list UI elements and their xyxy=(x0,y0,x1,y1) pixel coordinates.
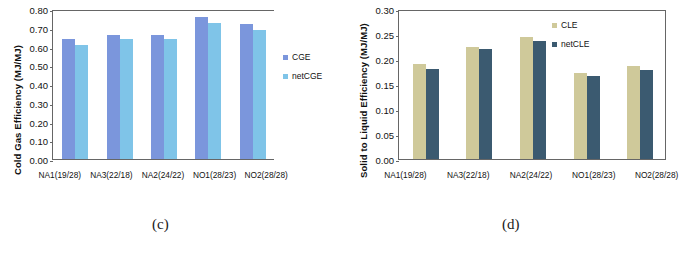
bar-cle xyxy=(520,37,533,160)
x-tick-label: NO2(28/28) xyxy=(625,170,688,180)
y-tick-mark xyxy=(50,86,54,87)
y-tick-label: 0.30 xyxy=(376,5,395,16)
y-tick-mark xyxy=(50,124,54,125)
bars-layer-c xyxy=(53,11,274,159)
x-tick-label: NO2(28/28) xyxy=(240,170,292,180)
legend-item: netCLE xyxy=(552,39,589,49)
y-tick-label: 0.70 xyxy=(30,23,49,34)
plot-area-d xyxy=(398,10,666,160)
legend-swatch-icon xyxy=(552,23,557,28)
x-tick-label: NO1(28/23) xyxy=(189,170,241,180)
x-tick-label: NA3(22/18) xyxy=(86,170,138,180)
bar-cge xyxy=(240,24,253,159)
x-tick-label: NO1(28/23) xyxy=(562,170,625,180)
x-axis-tick-labels-d: NA1(19/28)NA3(22/18)NA2(24/22)NO1(28/23)… xyxy=(374,170,688,180)
legend-item: CGE xyxy=(283,52,322,62)
chart-panel-c: Cold Gas Efficiency (MJ/MJ) 0.000.100.20… xyxy=(0,0,346,254)
bar-cge xyxy=(195,17,208,159)
bar-group xyxy=(613,11,667,159)
y-tick-mark xyxy=(396,111,400,112)
legend-label: netCLE xyxy=(561,39,589,49)
panel-caption-d: (d) xyxy=(502,216,520,233)
y-axis-tick-labels-c: 0.000.100.200.300.400.500.600.700.80 xyxy=(14,0,48,254)
y-tick-label: 0.20 xyxy=(30,117,49,128)
y-tick-label: 0.50 xyxy=(30,61,49,72)
bar-group xyxy=(53,11,97,159)
bar-netcle xyxy=(426,69,439,160)
y-tick-label: 0.00 xyxy=(30,155,49,166)
y-tick-mark xyxy=(396,161,400,162)
y-tick-mark xyxy=(396,11,400,12)
plot-area-c xyxy=(52,10,274,160)
bar-netcge xyxy=(120,39,133,159)
x-axis-tick-labels-c: NA1(19/28)NA3(22/18)NA2(24/22)NO1(28/23)… xyxy=(34,170,292,180)
bar-group xyxy=(142,11,186,159)
x-tick-label: NA1(19/28) xyxy=(374,170,437,180)
y-tick-mark xyxy=(50,105,54,106)
bars-layer-d xyxy=(399,11,665,159)
bar-cle xyxy=(574,73,587,159)
y-tick-label: 0.10 xyxy=(376,105,395,116)
x-tick-label: NA3(22/18) xyxy=(437,170,500,180)
y-axis-tick-labels-d: 0.000.050.100.150.200.250.30 xyxy=(360,0,394,254)
y-tick-mark xyxy=(50,49,54,50)
y-tick-mark xyxy=(396,61,400,62)
y-tick-mark xyxy=(396,136,400,137)
bar-group xyxy=(186,11,230,159)
bar-netcge xyxy=(75,45,88,159)
y-tick-label: 0.15 xyxy=(376,80,395,91)
y-tick-label: 0.25 xyxy=(376,30,395,41)
bar-cge xyxy=(151,35,164,159)
x-tick-label: NA2(24/22) xyxy=(137,170,189,180)
y-tick-mark xyxy=(50,161,54,162)
panel-caption-c: (c) xyxy=(152,216,169,233)
y-tick-label: 0.60 xyxy=(30,42,49,53)
y-tick-mark xyxy=(50,11,54,12)
bar-netcge xyxy=(164,39,177,159)
legend-c: CGEnetCGE xyxy=(283,52,322,81)
y-tick-mark xyxy=(396,36,400,37)
legend-label: CLE xyxy=(561,20,578,30)
legend-item: CLE xyxy=(552,20,589,30)
legend-label: CGE xyxy=(292,52,310,62)
y-tick-label: 0.40 xyxy=(30,80,49,91)
x-tick-label: NA1(19/28) xyxy=(34,170,86,180)
legend-swatch-icon xyxy=(283,74,288,79)
bar-group xyxy=(399,11,453,159)
y-tick-mark xyxy=(50,67,54,68)
bar-group xyxy=(97,11,141,159)
y-tick-label: 0.80 xyxy=(30,5,49,16)
legend-d: CLEnetCLE xyxy=(552,20,589,49)
bar-netcle xyxy=(640,70,653,160)
x-tick-label: NA2(24/22) xyxy=(500,170,563,180)
bar-cge xyxy=(107,35,120,159)
y-tick-label: 0.00 xyxy=(376,155,395,166)
bar-cle xyxy=(627,66,640,160)
legend-item: netCGE xyxy=(283,71,322,81)
bar-netcle xyxy=(587,76,600,159)
y-tick-label: 0.30 xyxy=(30,98,49,109)
y-tick-mark xyxy=(396,86,400,87)
bar-netcle xyxy=(479,49,492,159)
legend-swatch-icon xyxy=(552,42,557,47)
chart-panel-d: Solid to Liquid Efficiency (MJ/MJ) 0.000… xyxy=(346,0,692,254)
bar-cle xyxy=(413,64,426,159)
y-tick-label: 0.20 xyxy=(376,55,395,66)
bar-netcge xyxy=(253,30,266,159)
y-tick-label: 0.10 xyxy=(30,136,49,147)
bar-netcge xyxy=(208,23,221,159)
y-tick-mark xyxy=(50,30,54,31)
bar-group xyxy=(231,11,275,159)
y-tick-mark xyxy=(50,142,54,143)
bar-group xyxy=(453,11,507,159)
bar-cle xyxy=(466,47,479,160)
bar-netcle xyxy=(533,41,546,160)
legend-swatch-icon xyxy=(283,55,288,60)
bar-cge xyxy=(62,39,75,159)
legend-label: netCGE xyxy=(292,71,322,81)
y-tick-label: 0.05 xyxy=(376,130,395,141)
figure-panel-row: Cold Gas Efficiency (MJ/MJ) 0.000.100.20… xyxy=(0,0,692,254)
